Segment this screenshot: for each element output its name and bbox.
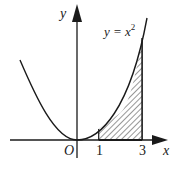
parabola-area-diagram: y x O 1 3 y = x2 <box>0 0 182 169</box>
curve-label-exponent: 2 <box>131 22 136 32</box>
curve-label-base: y = x <box>102 24 131 39</box>
origin-label: O <box>64 143 74 158</box>
y-axis-arrow-icon <box>72 4 82 22</box>
tick-label-1: 1 <box>96 143 103 158</box>
tick-label-3: 3 <box>139 143 146 158</box>
curve-label: y = x2 <box>102 22 135 39</box>
x-axis-label: x <box>162 143 170 158</box>
y-axis-label: y <box>58 6 67 21</box>
